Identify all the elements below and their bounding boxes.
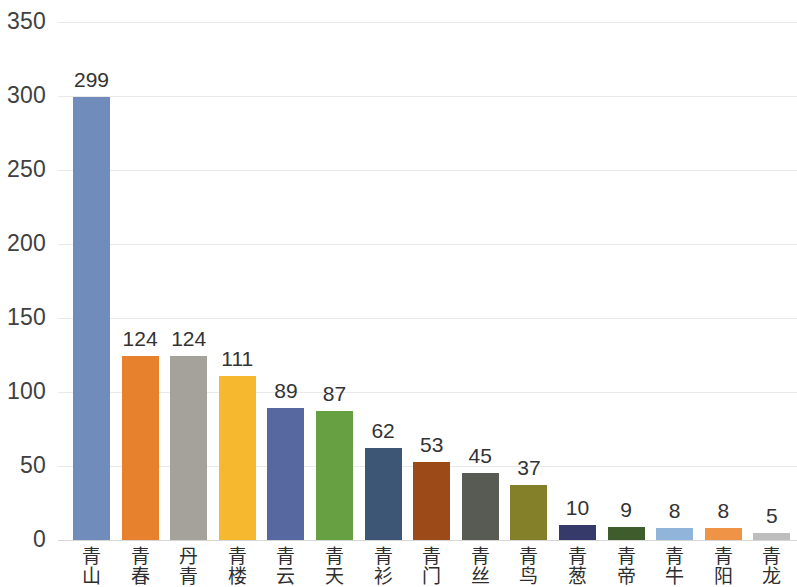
bar[interactable] xyxy=(122,356,159,540)
bar-slot xyxy=(262,408,309,540)
bar-value-label: 124 xyxy=(165,328,212,349)
x-axis-category-label: 青丝 xyxy=(457,546,504,586)
bar-slot xyxy=(117,356,164,540)
bar-value-label: 62 xyxy=(360,420,407,441)
bar[interactable] xyxy=(219,376,256,540)
category-label-char: 春 xyxy=(117,566,164,586)
bar-slot xyxy=(408,462,455,540)
category-label-char: 青 xyxy=(165,566,212,586)
x-axis-category-label: 青门 xyxy=(408,546,455,586)
category-label-char: 云 xyxy=(262,566,309,586)
bar-slot xyxy=(651,528,698,540)
bar[interactable] xyxy=(365,448,402,540)
x-axis-category-label: 青春 xyxy=(117,546,164,586)
category-label-char: 青 xyxy=(603,546,650,566)
bar[interactable] xyxy=(510,485,547,540)
category-label-char: 丹 xyxy=(165,546,212,566)
bar-slot xyxy=(214,376,261,540)
category-label-char: 青 xyxy=(457,546,504,566)
category-label-char: 山 xyxy=(68,566,115,586)
bar-value-label: 89 xyxy=(262,380,309,401)
bar-slot xyxy=(457,473,504,540)
bar-slot xyxy=(68,97,115,540)
bar-value-label: 8 xyxy=(700,500,747,521)
x-axis-category-label: 青牛 xyxy=(651,546,698,586)
bar[interactable] xyxy=(170,356,207,540)
category-label-char: 丝 xyxy=(457,566,504,586)
bar-slot xyxy=(603,527,650,540)
category-label-char: 青 xyxy=(262,546,309,566)
category-label-char: 龙 xyxy=(748,566,795,586)
category-label-char: 帝 xyxy=(603,566,650,586)
category-label-char: 楼 xyxy=(214,566,261,586)
bar-slot xyxy=(554,525,601,540)
bar-value-label: 87 xyxy=(311,383,358,404)
x-axis-category-label: 青鸟 xyxy=(505,546,552,586)
bar-value-label: 5 xyxy=(748,505,795,526)
bar-value-label: 10 xyxy=(554,497,601,518)
category-label-char: 天 xyxy=(311,566,358,586)
category-label-char: 青 xyxy=(408,546,455,566)
bar-slot xyxy=(505,485,552,540)
category-label-char: 门 xyxy=(408,566,455,586)
category-label-char: 青 xyxy=(117,546,164,566)
bar-value-label: 111 xyxy=(214,348,261,369)
bar[interactable] xyxy=(267,408,304,540)
bar[interactable] xyxy=(705,528,742,540)
category-label-char: 牛 xyxy=(651,566,698,586)
category-label-char: 青 xyxy=(700,546,747,566)
category-label-char: 衫 xyxy=(360,566,407,586)
category-label-char: 青 xyxy=(214,546,261,566)
x-axis-category-label: 青龙 xyxy=(748,546,795,586)
x-axis-category-label: 青葱 xyxy=(554,546,601,586)
category-label-char: 葱 xyxy=(554,566,601,586)
bar[interactable] xyxy=(462,473,499,540)
bar-value-label: 37 xyxy=(505,457,552,478)
bar[interactable] xyxy=(73,97,110,540)
x-axis-category-label: 青楼 xyxy=(214,546,261,586)
bar-value-label: 8 xyxy=(651,500,698,521)
category-label-char: 青 xyxy=(651,546,698,566)
category-label-char: 青 xyxy=(360,546,407,566)
bar[interactable] xyxy=(656,528,693,540)
bar[interactable] xyxy=(413,462,450,540)
x-axis-category-label: 青天 xyxy=(311,546,358,586)
category-label-char: 鸟 xyxy=(505,566,552,586)
bar[interactable] xyxy=(608,527,645,540)
category-label-char: 青 xyxy=(748,546,795,566)
bar-value-label: 9 xyxy=(603,499,650,520)
x-axis-category-label: 丹青 xyxy=(165,546,212,586)
x-axis-category-label: 青阳 xyxy=(700,546,747,586)
bar-slot xyxy=(311,411,358,540)
x-axis-category-label: 青山 xyxy=(68,546,115,586)
bar[interactable] xyxy=(559,525,596,540)
x-axis-category-label: 青帝 xyxy=(603,546,650,586)
category-label-char: 阳 xyxy=(700,566,747,586)
x-axis-category-label: 青云 xyxy=(262,546,309,586)
bar-value-label: 53 xyxy=(408,434,455,455)
bar-slot xyxy=(748,533,795,540)
bar[interactable] xyxy=(316,411,353,540)
category-label-char: 青 xyxy=(311,546,358,566)
bar[interactable] xyxy=(753,533,790,540)
category-label-char: 青 xyxy=(554,546,601,566)
bar-value-label: 124 xyxy=(117,328,164,349)
bar-value-label: 299 xyxy=(68,69,115,90)
category-label-char: 青 xyxy=(68,546,115,566)
x-axis-category-label: 青衫 xyxy=(360,546,407,586)
bar-slot xyxy=(165,356,212,540)
bar-slot xyxy=(700,528,747,540)
bar-slot xyxy=(360,448,407,540)
bar-value-label: 45 xyxy=(457,445,504,466)
category-label-char: 青 xyxy=(505,546,552,566)
